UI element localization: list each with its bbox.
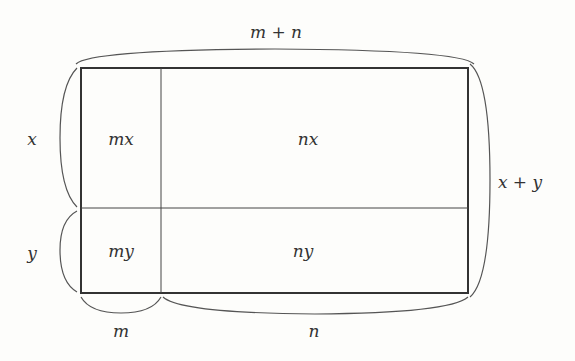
right-label: x + y bbox=[498, 172, 542, 192]
bottom-brace-m bbox=[81, 297, 161, 313]
diagram-graphics bbox=[0, 0, 575, 361]
cell-ny: ny bbox=[293, 241, 314, 261]
right-brace bbox=[470, 64, 490, 297]
cell-nx: nx bbox=[298, 129, 319, 149]
top-brace bbox=[76, 49, 474, 64]
cell-mx: mx bbox=[108, 129, 134, 149]
bottom-label-m: m bbox=[113, 321, 129, 341]
bottom-brace-n bbox=[163, 297, 468, 314]
top-label: m + n bbox=[250, 22, 302, 42]
bottom-label-n: n bbox=[309, 321, 320, 341]
area-model-diagram: m + n x + y x y m n mx nx my ny bbox=[0, 0, 575, 361]
left-brace-x bbox=[60, 68, 77, 207]
cell-my: my bbox=[108, 241, 134, 261]
left-label-y: y bbox=[27, 243, 37, 263]
left-brace-y bbox=[60, 211, 77, 292]
outer-rectangle bbox=[81, 68, 468, 293]
left-label-x: x bbox=[27, 129, 37, 149]
